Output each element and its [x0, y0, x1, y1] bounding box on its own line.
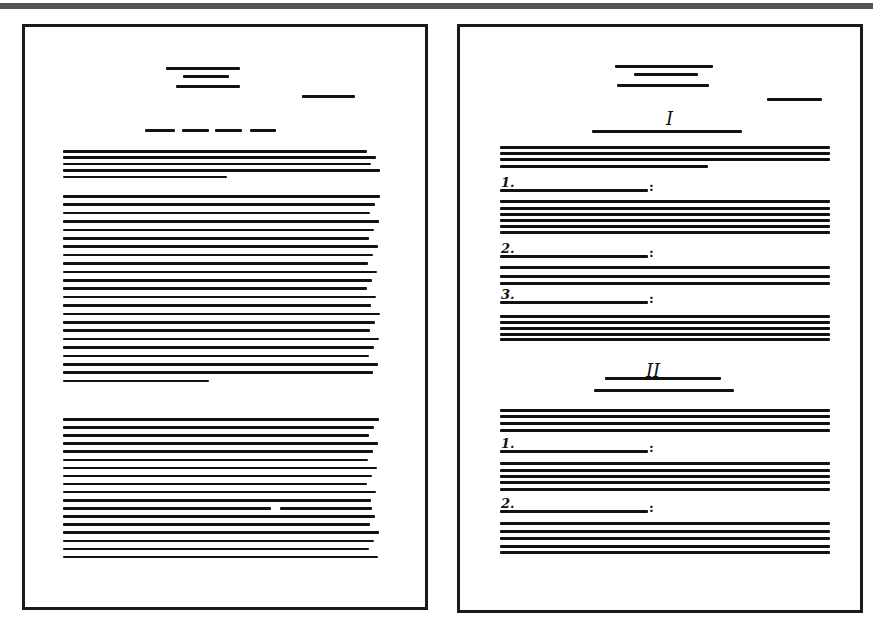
- title-dash: [250, 129, 276, 132]
- header-line: [166, 67, 240, 70]
- text-line: [63, 450, 373, 453]
- header-line: [183, 75, 229, 78]
- section-title-line: [592, 130, 742, 133]
- point-colon: :: [649, 501, 654, 514]
- text-line: [500, 200, 830, 203]
- point-heading-line: [500, 510, 648, 513]
- text-line: [500, 429, 830, 432]
- text-line: [63, 329, 370, 332]
- text-line: [63, 245, 378, 248]
- header-line: [615, 65, 713, 68]
- text-line: [63, 507, 271, 510]
- text-line: [500, 225, 830, 228]
- title-dash: [215, 129, 242, 132]
- text-line: [63, 150, 367, 153]
- text-line: [63, 426, 374, 429]
- text-line: [63, 418, 379, 421]
- text-line: [63, 371, 373, 374]
- top-border-bar: [0, 3, 873, 9]
- text-line: [500, 266, 830, 269]
- text-line: [63, 459, 368, 462]
- text-line: [63, 523, 370, 526]
- text-line: [63, 442, 378, 445]
- text-line: [63, 355, 369, 358]
- text-line: [500, 146, 830, 149]
- point-heading-line: [500, 301, 648, 304]
- title-dash: [145, 129, 175, 132]
- date-line: [302, 95, 355, 98]
- text-line: [63, 540, 374, 543]
- text-line: [63, 531, 379, 534]
- text-line: [63, 363, 378, 366]
- point-number: 2.: [501, 497, 515, 510]
- point-number: 1.: [501, 437, 515, 450]
- text-line: [500, 422, 830, 425]
- text-line: [63, 338, 379, 341]
- section-title-line: [594, 389, 734, 392]
- text-line: [500, 488, 830, 491]
- section-title-line: [605, 377, 721, 380]
- text-line: [63, 346, 374, 349]
- right-page-structured-layout: I1.:2.:3.:II1.:2.:: [457, 24, 863, 613]
- text-line: [63, 254, 373, 257]
- text-line: [500, 545, 830, 548]
- text-line: [63, 467, 377, 470]
- text-line: [63, 156, 376, 159]
- point-heading-line: [500, 450, 648, 453]
- text-line: [500, 551, 830, 554]
- point-heading-line: [500, 189, 648, 192]
- text-line: [500, 165, 708, 168]
- text-line: [63, 483, 367, 486]
- point-colon: :: [649, 180, 654, 193]
- section-numeral-1: I: [666, 110, 673, 128]
- text-line: [63, 287, 367, 290]
- text-line: [63, 475, 372, 478]
- text-line: [63, 321, 375, 324]
- text-line: [63, 203, 375, 206]
- text-line: [500, 409, 830, 412]
- point-colon: :: [649, 441, 654, 454]
- text-line: [63, 237, 369, 240]
- text-line: [63, 313, 380, 316]
- text-line: [500, 327, 830, 330]
- text-line: [500, 152, 830, 155]
- header-line: [617, 84, 709, 87]
- text-line: [500, 475, 830, 478]
- text-line: [63, 548, 369, 551]
- text-line: [500, 338, 830, 341]
- text-line: [63, 169, 380, 172]
- point-heading-line: [500, 255, 648, 258]
- text-line: [500, 530, 830, 533]
- text-line: [500, 537, 830, 540]
- text-line: [63, 279, 372, 282]
- title-dash: [182, 129, 209, 132]
- text-line: [500, 231, 830, 234]
- header-line: [176, 85, 240, 88]
- date-line: [767, 98, 822, 101]
- text-line: [500, 522, 830, 525]
- text-line: [500, 315, 830, 318]
- text-line: [500, 415, 830, 418]
- text-line: [500, 282, 830, 285]
- point-colon: :: [649, 292, 654, 305]
- point-colon: :: [649, 246, 654, 259]
- text-line: [500, 213, 830, 216]
- header-line: [634, 73, 698, 76]
- point-number: 2.: [501, 242, 515, 255]
- point-number: 1.: [501, 176, 515, 189]
- text-line: [500, 207, 830, 210]
- text-line: [500, 481, 830, 484]
- text-line: [63, 212, 370, 215]
- text-line: [63, 176, 227, 179]
- text-line: [500, 469, 830, 472]
- text-line: [500, 275, 830, 278]
- text-line: [63, 271, 377, 274]
- text-line: [500, 219, 830, 222]
- text-line: [63, 195, 380, 198]
- text-line: [500, 333, 830, 336]
- left-page-prose-layout: [22, 24, 428, 610]
- text-line: [63, 556, 378, 559]
- text-line: [63, 304, 371, 307]
- text-line: [500, 321, 830, 324]
- text-line: [63, 491, 376, 494]
